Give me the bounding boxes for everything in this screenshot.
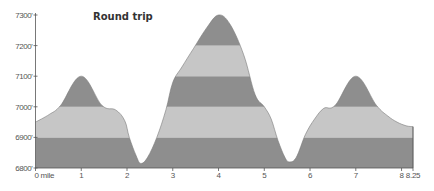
x-tick-label: 8.25	[406, 171, 421, 180]
elevation-band	[36, 76, 414, 107]
x-tick-label: 8	[399, 171, 404, 180]
x-tick-label: 1	[79, 171, 84, 180]
x-tick-label: 2	[125, 171, 130, 180]
x-tick-label: 7	[354, 171, 359, 180]
elevation-chart: 6800'6900'7000'7100'7200'7300'0 mile1234…	[0, 0, 434, 191]
elevation-band	[36, 46, 414, 77]
x-tick-label: 0 mile	[35, 171, 55, 180]
elevation-band	[36, 107, 414, 138]
x-tick-label: 5	[262, 171, 267, 180]
chart-title: Round trip	[93, 11, 153, 22]
x-tick-label: 3	[171, 171, 176, 180]
elevation-band	[36, 137, 414, 168]
y-tick-label: 7100'	[15, 72, 33, 81]
y-tick-label: 6900'	[15, 133, 33, 142]
elevation-bands	[36, 15, 414, 168]
x-tick-label: 6	[308, 171, 313, 180]
y-tick-label: 7300'	[15, 11, 33, 20]
y-tick-label: 7000'	[15, 103, 33, 112]
y-tick-label: 7200'	[15, 42, 33, 51]
y-tick-label: 6800'	[15, 164, 33, 173]
x-tick-label: 4	[216, 171, 221, 180]
